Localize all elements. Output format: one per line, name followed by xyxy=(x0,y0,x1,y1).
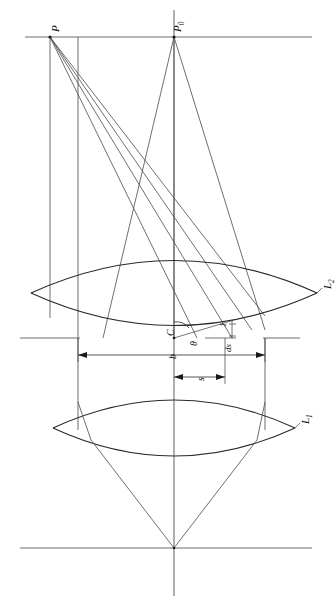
cone-upper-right xyxy=(257,402,265,440)
label-dim-b: b xyxy=(168,354,178,359)
label-point-c-text: C xyxy=(165,329,176,336)
label-point-c: C xyxy=(166,329,176,336)
point-p-dot xyxy=(48,35,51,38)
label-unit-one-text: 1 xyxy=(218,323,228,328)
label-point-p: P xyxy=(50,25,61,32)
label-point-p0: P0 xyxy=(172,22,186,32)
label-point-p-text: P xyxy=(49,25,61,32)
label-lens-l2-base: L xyxy=(321,283,333,289)
focal-point-dot xyxy=(173,547,176,550)
label-theta: θ xyxy=(189,341,199,346)
dim-s-arrow-right xyxy=(216,374,225,380)
label-theta-text: θ xyxy=(188,341,199,346)
ray-p-1 xyxy=(50,37,197,338)
label-lens-l1: L1 xyxy=(300,414,314,424)
label-lens-l1-base: L xyxy=(299,418,311,424)
ray-p0-left xyxy=(103,37,174,338)
ray-p-3 xyxy=(50,37,252,330)
label-lens-l2: L2 xyxy=(322,279,336,289)
dim-b-arrow-right xyxy=(256,352,265,358)
label-dim-b-text: b xyxy=(167,354,178,359)
label-point-p0-base: P xyxy=(171,25,183,32)
label-dim-s: s xyxy=(196,377,206,381)
label-lens-l1-sub: 1 xyxy=(306,414,314,418)
label-unit-one: 1 xyxy=(219,323,228,328)
dim-b-arrow-left xyxy=(78,352,87,358)
ray-p-2 xyxy=(50,37,232,338)
label-dim-s-text: s xyxy=(195,377,206,381)
cone-upper-left xyxy=(78,402,91,440)
dim-s-arrow-left xyxy=(174,374,183,380)
label-ds-text: ds xyxy=(223,344,233,352)
label-ds: ds xyxy=(224,344,233,352)
label-lens-l2-sub: 2 xyxy=(328,279,336,283)
ray-p0-right xyxy=(174,37,265,330)
point-p0-dot xyxy=(172,35,175,38)
point-c-dot xyxy=(173,337,176,340)
label-point-p0-sub: 0 xyxy=(178,22,186,26)
